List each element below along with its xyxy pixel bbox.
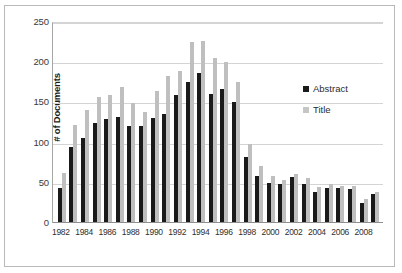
bar-title — [248, 144, 252, 223]
y-axis-tick: 150 — [9, 97, 49, 107]
bar-group — [369, 23, 381, 223]
bar-title — [131, 103, 135, 223]
bar-group — [253, 23, 265, 223]
bar-group — [311, 23, 323, 223]
chart-container: # of Documents 250200150100500 198219841… — [4, 5, 395, 267]
x-axis-tick: 1982 — [55, 225, 67, 247]
bar-title — [340, 186, 344, 223]
y-axis-tick-labels: 250200150100500 — [5, 22, 49, 223]
bar-title — [282, 180, 286, 223]
bar-group — [242, 23, 254, 223]
bar-group — [126, 23, 138, 223]
bar-group — [114, 23, 126, 223]
bar-title — [352, 186, 356, 223]
bar-group — [91, 23, 103, 223]
bar-group — [219, 23, 231, 223]
bar-title — [108, 95, 112, 223]
x-axis-tick: 1990 — [148, 225, 160, 247]
bar-title — [201, 41, 205, 223]
bar-group — [172, 23, 184, 223]
x-axis-tick: 1988 — [125, 225, 137, 247]
bar-title — [259, 166, 263, 223]
bar-title — [236, 82, 240, 224]
bar-title — [294, 174, 298, 223]
bar-groups — [53, 23, 383, 223]
bar-group — [68, 23, 80, 223]
bar-title — [329, 184, 333, 223]
x-axis-tick: 2000 — [265, 225, 277, 247]
bar-group — [102, 23, 114, 223]
x-axis-tick: 1984 — [78, 225, 90, 247]
bar-group — [149, 23, 161, 223]
bar-group — [137, 23, 149, 223]
bar-title — [271, 176, 275, 223]
bar-title — [306, 178, 310, 223]
legend-item-title: Title — [303, 105, 348, 115]
bar-group — [230, 23, 242, 223]
x-axis-tick: 1986 — [102, 225, 114, 247]
bar-title — [97, 97, 101, 223]
x-axis-tick: 2008 — [358, 225, 370, 247]
bar-group — [184, 23, 196, 223]
legend-label-title: Title — [313, 105, 331, 115]
plot-area — [52, 22, 383, 223]
y-axis-tick: 100 — [9, 138, 49, 148]
y-axis-tick: 200 — [9, 57, 49, 67]
bar-group — [335, 23, 347, 223]
bar-title — [375, 192, 379, 223]
bar-title — [143, 112, 147, 223]
bar-group — [323, 23, 335, 223]
x-axis-tick: 1992 — [171, 225, 183, 247]
bar-title — [85, 110, 89, 223]
bar-title — [317, 187, 321, 223]
legend-label-abstract: Abstract — [313, 84, 348, 94]
bar-group — [79, 23, 91, 223]
bar-group — [265, 23, 277, 223]
bar-title — [224, 62, 228, 223]
x-axis-tick: 1994 — [195, 225, 207, 247]
x-axis-tick — [369, 225, 381, 247]
bar-title — [364, 199, 368, 223]
legend-swatch-title — [303, 107, 309, 113]
x-axis-tick-labels: 1982198419861988199019921994199619982000… — [52, 225, 383, 247]
x-axis-tick: 2006 — [334, 225, 346, 247]
bar-group — [195, 23, 207, 223]
bar-group — [56, 23, 68, 223]
y-axis-tick: 50 — [9, 178, 49, 188]
bar-title — [190, 42, 194, 223]
bar-group — [160, 23, 172, 223]
legend-item-abstract: Abstract — [303, 84, 348, 94]
y-axis-tick: 0 — [9, 218, 49, 228]
x-axis-line — [53, 222, 383, 223]
legend-swatch-abstract — [303, 86, 309, 92]
bar-title — [213, 58, 217, 223]
bar-group — [358, 23, 370, 223]
bar-title — [178, 71, 182, 223]
bar-group — [346, 23, 358, 223]
bar-title — [155, 91, 159, 223]
bar-group — [207, 23, 219, 223]
x-axis-tick: 1998 — [241, 225, 253, 247]
x-axis-tick: 2002 — [288, 225, 300, 247]
chart-legend: Abstract Title — [303, 84, 348, 115]
x-axis-tick: 1996 — [218, 225, 230, 247]
bar-title — [73, 125, 77, 223]
bar-group — [288, 23, 300, 223]
bar-title — [166, 76, 170, 223]
y-axis-tick: 250 — [9, 17, 49, 27]
bar-title — [62, 173, 66, 223]
bar-group — [300, 23, 312, 223]
bar-group — [277, 23, 289, 223]
bar-title — [120, 87, 124, 223]
x-axis-tick: 2004 — [311, 225, 323, 247]
